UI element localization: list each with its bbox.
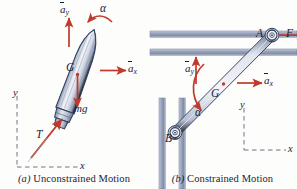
mechanics-figure: ay ax α G mg T y x (a) Unconstrained Mot… [0, 0, 297, 189]
panel-b-graphics [148, 0, 297, 189]
label-weight-a: mg [74, 103, 87, 114]
horizontal-rail-lower [150, 49, 297, 55]
label-axis-y-a: y [13, 88, 18, 99]
label-center-of-mass-b: G [211, 88, 219, 100]
label-alpha-a: α [100, 3, 106, 15]
label-joint-A: A [256, 28, 263, 40]
coordinate-axes-b [244, 108, 286, 150]
label-alpha-b: α [195, 107, 201, 119]
caption-tag-b: (b) [172, 173, 185, 184]
panel-a-graphics [0, 0, 148, 189]
label-a-x-a: ax [128, 63, 137, 76]
label-joint-B: B [165, 133, 172, 145]
label-thrust-a: T [36, 129, 42, 141]
caption-tag-a: (a) [18, 173, 31, 184]
label-axis-y-b: y [240, 100, 245, 111]
pin-joint-A [267, 30, 277, 40]
label-a-x-b: ax [264, 75, 273, 88]
label-axis-x-b: x [288, 144, 293, 155]
caption-text-b: Constrained Motion [187, 173, 273, 184]
label-a-y-b: ay [185, 63, 194, 76]
label-a-y-a: ay [60, 4, 69, 17]
panel-unconstrained-motion: ay ax α G mg T y x (a) Unconstrained Mot… [0, 0, 148, 189]
panel-constrained-motion: A B F ay ax G α y x (b) Constrained Moti… [148, 0, 297, 189]
rocket-axis-line-a [28, 138, 47, 162]
label-center-of-mass-a: G [66, 62, 74, 74]
label-force-F: F [286, 28, 293, 40]
label-axis-x-a: x [80, 161, 85, 172]
center-of-mass-dot-b [222, 82, 225, 85]
caption-text-a: Unconstrained Motion [33, 173, 130, 184]
caption-panel-b: (b) Constrained Motion [148, 173, 297, 184]
arrow-alpha-a [88, 16, 112, 22]
caption-panel-a: (a) Unconstrained Motion [0, 173, 148, 184]
